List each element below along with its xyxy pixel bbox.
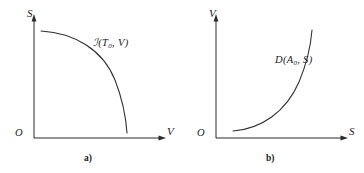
y-axis-label-b: V [209,8,216,19]
x-axis-label-a: V [167,126,174,137]
curve-annotation-b: D(A0, S) [275,55,312,66]
chart-panel-b: V S O D(A0, S) b) [182,0,364,173]
curve-annotation-a-sub1: 0 [108,42,112,50]
chart-panel-a: S V O ℐ(T0, V) a) [0,0,182,173]
x-axis-arrowhead-a [159,136,167,141]
plot-area-b [182,0,364,173]
origin-label-a: O [15,128,23,139]
x-axis-label-b: S [349,126,355,137]
origin-label-b: O [197,128,205,139]
curve-annotation-b-close: ) [309,54,313,65]
figure-container: S V O ℐ(T0, V) a) V S O D(A0, S) b) [0,0,364,173]
x-axis-arrowhead-b [341,136,349,141]
curve-annotation-b-sub1: 0 [293,59,297,67]
curve-annotation-a-close: ) [125,37,129,48]
y-axis-label-a: S [27,8,33,19]
plot-area-a [0,0,182,173]
panel-caption-a: a) [84,154,92,164]
curve-annotation-a-arg2: V [118,37,125,48]
curve-annotation-b-name: D [275,54,283,65]
panel-caption-b: b) [266,154,274,164]
curve-dissipation-b [233,30,312,131]
curve-annotation-a: ℐ(T0, V) [93,38,128,49]
